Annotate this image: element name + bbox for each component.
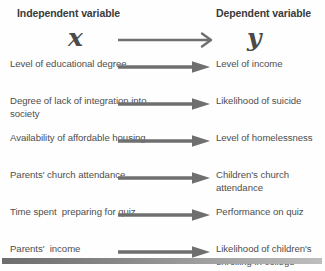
- symbol-row: x y: [0, 24, 325, 56]
- dependent-variable-cell: Children's church attendance: [216, 169, 324, 194]
- y-symbol: y: [247, 23, 262, 52]
- table-row: Level of educational degree Level of inc…: [0, 58, 325, 95]
- arrow-right-icon: [118, 246, 212, 258]
- table-row: Availability of affordable housing Level…: [0, 132, 325, 169]
- dependent-variable-heading: Dependent variable: [216, 7, 311, 19]
- arrow-right-icon: [118, 209, 212, 221]
- variable-rows: Level of educational degree Level of inc…: [0, 58, 325, 271]
- x-symbol: x: [68, 23, 83, 52]
- table-row: Parents' church attendance Children's ch…: [0, 169, 325, 206]
- dependent-variable-cell: Likelihood of suicide: [216, 95, 324, 108]
- arrow-right-icon: [118, 98, 212, 110]
- bottom-divider-bar: [2, 258, 322, 264]
- dependent-variable-cell: Performance on quiz: [216, 206, 324, 219]
- arrow-right-icon: [118, 172, 212, 184]
- arrow-right-icon: [118, 135, 212, 147]
- table-row: Degree of lack of integration into socie…: [0, 95, 325, 132]
- dependent-variable-cell: Likelihood of children's enrolling in co…: [216, 243, 324, 268]
- table-row: Time spent preparing for quiz Performanc…: [0, 206, 325, 243]
- table-row: Parents' income Likelihood of children's…: [0, 243, 325, 271]
- main-arrow-right-icon: [118, 31, 218, 49]
- dependent-variable-cell: Level of income: [216, 58, 324, 71]
- arrow-right-icon: [118, 61, 212, 73]
- diagram-canvas: Independent variable Dependent variable …: [0, 0, 325, 271]
- independent-variable-heading: Independent variable: [17, 7, 120, 19]
- column-headers: Independent variable Dependent variable: [0, 7, 325, 23]
- dependent-variable-cell: Level of homelessness: [216, 132, 324, 145]
